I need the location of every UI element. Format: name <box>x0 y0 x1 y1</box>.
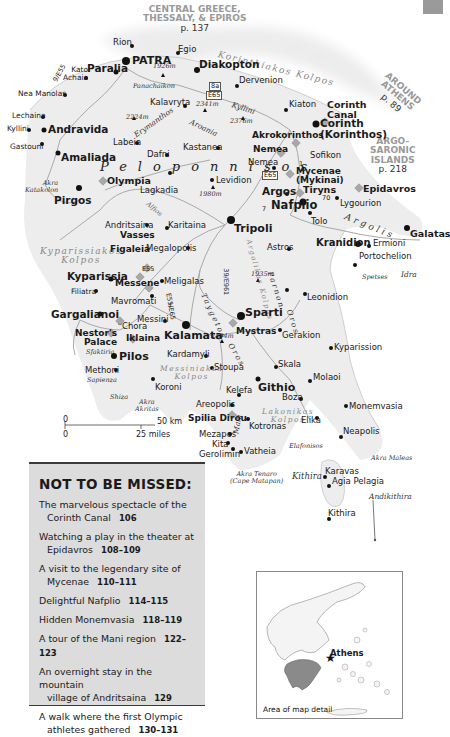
place-kotronas[interactable]: Kotronas <box>249 422 286 431</box>
page-ref[interactable]: 114–115 <box>129 596 169 606</box>
place-epidavros[interactable]: Epidavros <box>363 184 416 194</box>
place-mavromati[interactable]: Mavromati <box>111 297 156 306</box>
place-levidion[interactable]: Levidion <box>216 176 252 185</box>
place-gargalianoi[interactable]: Gargalianoi <box>51 309 119 320</box>
place-neapolis[interactable]: Neapolis <box>343 427 380 436</box>
place-paralia[interactable]: Paralia <box>87 63 128 74</box>
region-argo-saronic[interactable]: ARGO- SARONIC ISLANDS p. 218 <box>370 137 416 175</box>
place-karitaina[interactable]: Karitaina <box>168 221 206 230</box>
page-ref[interactable]: 110–111 <box>97 577 137 587</box>
place-tolo[interactable]: Tolo <box>311 217 328 226</box>
place-mezapos[interactable]: Mezapos <box>199 430 236 439</box>
highlight-mycenae[interactable]: A visit to the legendary site of Mycenae… <box>39 562 195 589</box>
place-diakopton[interactable]: Diakopton <box>199 59 260 70</box>
place-spetses[interactable]: Spetses <box>362 274 388 281</box>
place-kelefa[interactable]: Kelefa <box>226 386 252 395</box>
place-messene[interactable]: Messene <box>115 279 159 288</box>
place-shiza[interactable]: Shiza <box>110 394 128 401</box>
place-vatheia[interactable]: Vatheia <box>244 447 276 456</box>
place-portochelion[interactable]: Portochelion <box>359 252 412 261</box>
highlight-monemvasia[interactable]: Hidden Monemvasia118–119 <box>39 613 195 627</box>
place-kiaton[interactable]: Kiaton <box>289 100 316 109</box>
place-monemvasia[interactable]: Monemvasia <box>349 402 403 411</box>
place-lagkadia[interactable]: Lagkadia <box>140 186 178 195</box>
place-argos[interactable]: Argos <box>262 186 296 197</box>
place-dafni[interactable]: Dafni <box>147 150 170 159</box>
place-amaliada[interactable]: Amaliada <box>61 152 116 163</box>
place-iklaina[interactable]: Iklaina <box>126 334 160 343</box>
place-pirgos[interactable]: Pirgos <box>54 195 91 206</box>
place-gastouni[interactable]: Gastouni <box>10 143 43 151</box>
place-dervenion[interactable]: Dervenion <box>239 76 283 85</box>
place-kato-achaia[interactable]: Kato Achaia <box>63 66 88 83</box>
place-andritsaina[interactable]: Andritsaina <box>105 221 153 230</box>
place-astros[interactable]: Astros <box>267 243 294 252</box>
place-kranidion[interactable]: Kranidion <box>316 238 371 248</box>
place-labeia[interactable]: Labeia <box>113 138 141 147</box>
place-stoupa[interactable]: Stoupa <box>214 363 244 372</box>
island-andikithira[interactable]: Andikithira <box>369 493 412 501</box>
place-elafonisos[interactable]: Elafonisos <box>289 443 323 450</box>
place-tiryns[interactable]: Tiryns <box>303 185 336 195</box>
highlight-epidavros[interactable]: Watching a play in the theater at Epidav… <box>39 530 195 557</box>
place-molaoi[interactable]: Molaoi <box>313 373 341 382</box>
place-sofikon[interactable]: Sofikon <box>310 151 341 160</box>
place-tripoli[interactable]: Tripoli <box>234 223 272 234</box>
place-gerakion[interactable]: Gerakion <box>282 331 320 340</box>
place-nea-manolas[interactable]: Nea Manolas <box>18 90 66 98</box>
place-nafplio[interactable]: Nafplio <box>271 200 317 212</box>
place-areopolis[interactable]: Areopolis <box>196 400 235 409</box>
place-kardamyli[interactable]: Kardamyli <box>167 350 210 359</box>
place-methoni[interactable]: Methoni <box>85 366 119 375</box>
highlight-corinth-canal[interactable]: The marvelous spectacle of the Corinth C… <box>39 498 195 525</box>
place-kyparission[interactable]: Kyparission <box>334 343 382 352</box>
place-sparti[interactable]: Sparti <box>245 307 283 318</box>
place-kita[interactable]: Kita <box>212 440 228 449</box>
place-lechaina[interactable]: Lechaina <box>12 112 46 120</box>
place-akrokorinthos[interactable]: Akrokorinthos <box>252 131 324 140</box>
place-idra[interactable]: Idra <box>401 271 417 279</box>
place-megalopolis[interactable]: Megalopolis <box>146 244 196 253</box>
place-spilia-dirou[interactable]: Spilia Dirou <box>188 414 247 423</box>
place-corinth[interactable]: Corinth (Korinthos) <box>320 118 387 140</box>
highlight-nafplio[interactable]: Delightful Nafplio114–115 <box>39 594 195 608</box>
place-nemea-site[interactable]: Nemea <box>253 145 288 154</box>
region-central-greece[interactable]: CENTRAL GREECE, THESSALY, & EPIROS p. 13… <box>143 5 246 33</box>
place-meligalas[interactable]: Meligalas <box>164 277 204 286</box>
place-lygourion[interactable]: Lygourion <box>340 199 381 208</box>
place-nestors-palace[interactable]: Nestor's Palace <box>75 329 117 348</box>
place-karavas[interactable]: Karavas <box>325 467 359 476</box>
place-rion[interactable]: Rion <box>113 38 132 47</box>
place-mystras[interactable]: Mystras <box>236 327 276 336</box>
place-egio[interactable]: Egio <box>178 45 196 54</box>
place-koroni[interactable]: Koroni <box>155 383 182 392</box>
page-ref[interactable]: 106 <box>119 513 137 523</box>
place-andravida[interactable]: Andravida <box>48 124 108 135</box>
place-patra[interactable]: PATRA <box>132 55 171 66</box>
highlight-andritsaina[interactable]: An overnight stay in the mountain villag… <box>39 665 195 705</box>
place-kyllini[interactable]: Kyllini <box>7 125 29 133</box>
place-kastanea[interactable]: Kastanea <box>183 143 222 152</box>
place-vasses[interactable]: Vasses <box>120 231 155 240</box>
page-ref[interactable]: 108–109 <box>101 545 141 555</box>
page-ref[interactable]: 118–119 <box>142 615 182 625</box>
place-skala[interactable]: Skala <box>278 360 301 369</box>
place-leonidion[interactable]: Leonidion <box>307 293 348 302</box>
place-agia-pelagia[interactable]: Agia Pelagia <box>332 477 384 486</box>
island-kithira[interactable]: Kithira <box>292 472 322 481</box>
place-sapienza[interactable]: Sapienza <box>87 377 117 384</box>
place-gerolimin[interactable]: Gerolimin <box>199 450 240 459</box>
place-filiatra[interactable]: Filiatra <box>71 288 96 296</box>
place-pilos[interactable]: Pilos <box>119 351 149 362</box>
page-ref[interactable]: 129 <box>154 693 172 703</box>
highlight-mani[interactable]: A tour of the Mani region122–123 <box>39 632 195 660</box>
place-galatas[interactable]: Galatas <box>410 229 450 239</box>
place-kithira[interactable]: Kithira <box>328 509 356 518</box>
place-kalamata[interactable]: Kalamata <box>164 330 223 341</box>
highlight-olympia[interactable]: A walk where the first Olympic athletes … <box>39 710 195 737</box>
place-boza[interactable]: Boza <box>282 393 303 402</box>
place-kalavryta[interactable]: Kalavryta <box>150 98 190 107</box>
place-ermioni[interactable]: Ermioni <box>373 239 405 248</box>
place-chora[interactable]: Chora <box>122 322 147 331</box>
page-ref[interactable]: 130–131 <box>139 725 179 735</box>
